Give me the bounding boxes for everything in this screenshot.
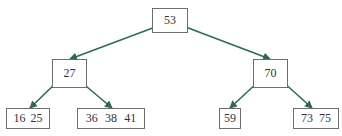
key: 38 bbox=[105, 111, 117, 126]
node-leaf-3: 59 bbox=[219, 108, 241, 129]
key: 73 bbox=[301, 111, 313, 126]
key: 27 bbox=[64, 66, 76, 81]
node-leaf-1: 16 25 bbox=[6, 108, 50, 129]
node-root: 53 bbox=[152, 8, 188, 33]
key: 25 bbox=[31, 111, 43, 126]
node-leaf-4: 73 75 bbox=[293, 108, 339, 129]
edge-root-left bbox=[70, 26, 158, 59]
edge-root-right bbox=[183, 26, 270, 59]
key: 41 bbox=[124, 111, 136, 126]
btree-diagram: 53 27 70 16 25 36 38 41 59 73 75 bbox=[0, 0, 342, 136]
key: 16 bbox=[14, 111, 26, 126]
key: 36 bbox=[86, 111, 98, 126]
key: 75 bbox=[319, 111, 331, 126]
key: 59 bbox=[224, 111, 236, 126]
node-leaf-2: 36 38 41 bbox=[77, 108, 145, 129]
key: 70 bbox=[265, 66, 277, 81]
node-right: 70 bbox=[253, 59, 288, 88]
node-left: 27 bbox=[52, 59, 87, 88]
key: 53 bbox=[164, 13, 176, 28]
